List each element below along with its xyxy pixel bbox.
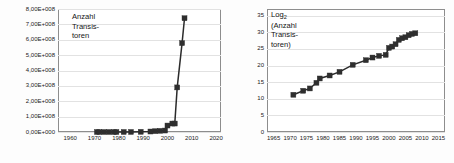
data-point-marker xyxy=(291,92,296,97)
data-point-marker xyxy=(337,69,342,74)
series-line xyxy=(97,18,185,132)
data-point-marker xyxy=(172,121,177,126)
data-point-marker xyxy=(307,86,312,91)
data-point-marker xyxy=(148,129,153,134)
data-point-marker xyxy=(121,129,126,134)
data-point-marker xyxy=(182,16,187,21)
series-layer-right xyxy=(227,0,454,163)
data-point-marker xyxy=(350,62,355,67)
data-point-marker xyxy=(180,41,185,46)
data-point-marker xyxy=(128,129,133,134)
figure-root: 0,00E+0001,00E+0082,00E+0083,00E+0084,00… xyxy=(0,0,454,163)
data-point-marker xyxy=(301,88,306,93)
data-point-marker xyxy=(383,52,388,57)
data-point-marker xyxy=(97,130,102,135)
series-layer-left xyxy=(0,0,227,163)
data-point-marker xyxy=(413,31,418,36)
chart-panel-transistor-count-linear: 0,00E+0001,00E+0082,00E+0083,00E+0084,00… xyxy=(0,0,227,163)
chart-panel-transistor-count-log2: 05101520253035 1965197019751980198519901… xyxy=(227,0,454,163)
data-point-marker xyxy=(163,128,168,133)
data-point-marker xyxy=(107,130,112,135)
data-point-marker xyxy=(363,58,368,63)
data-point-marker xyxy=(114,129,119,134)
data-point-marker xyxy=(370,55,375,60)
data-point-marker xyxy=(317,76,322,81)
data-point-marker xyxy=(153,129,158,134)
data-point-marker xyxy=(158,128,163,133)
data-point-marker xyxy=(138,129,143,134)
data-point-marker xyxy=(377,53,382,58)
data-point-marker xyxy=(165,123,170,128)
data-point-marker xyxy=(327,73,332,78)
data-point-marker xyxy=(102,130,107,135)
data-point-marker xyxy=(175,85,180,90)
